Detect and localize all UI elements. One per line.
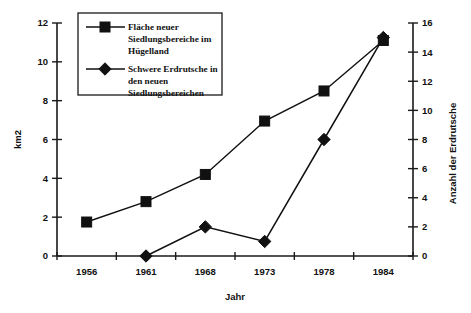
left-axis-tick-label: 4 (43, 173, 49, 184)
right-axis-tick-label: 14 (422, 47, 433, 58)
legend-label-text: Hügelland (128, 46, 169, 56)
legend-label-text: Siedlungsbereiche im (128, 34, 212, 44)
x-axis-tick-label: 1978 (313, 266, 334, 277)
right-axis-tick-label: 16 (422, 17, 433, 28)
right-axis-tick-label: 2 (422, 221, 427, 232)
right-axis-tick-label: 8 (422, 134, 427, 145)
right-axis-tick-label: 12 (422, 76, 433, 87)
legend-label-text: Schwere Erdrutsche in (128, 64, 218, 74)
right-axis-tick-label: 4 (422, 192, 428, 203)
legend-label-text: Fläche neuer (128, 22, 179, 32)
left-axis-tick-label: 0 (43, 250, 48, 261)
left-axis-tick-label: 2 (43, 212, 48, 223)
left-axis-tick-label: 12 (37, 17, 48, 28)
data-point-square (260, 116, 270, 126)
data-point-square (141, 197, 151, 207)
right-axis-tick-label: 10 (422, 105, 433, 116)
data-point-square (82, 217, 92, 227)
data-point-square (319, 86, 329, 96)
data-point-square (200, 169, 210, 179)
right-axis-tick-label: 6 (422, 163, 427, 174)
legend-marker-square (100, 22, 110, 32)
x-axis-tick-label: 1984 (373, 266, 395, 277)
x-axis-tick-label: 1961 (135, 266, 157, 277)
right-axis-tick-label: 0 (422, 250, 427, 261)
left-axis-tick-label: 6 (43, 134, 48, 145)
line-chart: 0246810120246810121416195619611968197319… (0, 0, 471, 313)
data-point-diamond (140, 250, 152, 262)
data-point-diamond (199, 221, 211, 233)
left-axis-tick-label: 10 (37, 56, 48, 67)
right-axis-title: Anzahl der Erdrutsche (447, 103, 458, 204)
data-point-diamond (318, 133, 330, 145)
left-axis-title: km2 (12, 130, 23, 149)
x-axis-title: Jahr (225, 291, 245, 302)
chart-legend: Fläche neuerSiedlungsbereiche imHügellan… (78, 13, 222, 98)
x-axis-tick-label: 1968 (195, 266, 216, 277)
x-axis-tick-label: 1973 (254, 266, 275, 277)
x-axis-tick-label: 1956 (76, 266, 97, 277)
legend-label-text: Siedlungsbereichen (128, 88, 204, 98)
left-axis-tick-label: 8 (43, 95, 48, 106)
legend-label-text: den neuen (128, 76, 168, 86)
data-point-diamond (258, 235, 270, 247)
chart-container: 0246810120246810121416195619611968197319… (0, 0, 471, 313)
